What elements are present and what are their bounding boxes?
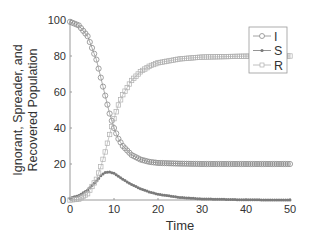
series-line	[70, 172, 290, 200]
y-axis-label-line-2: Recovered Population	[26, 48, 40, 171]
x-tick-label: 20	[152, 203, 164, 215]
legend-label: R	[274, 59, 283, 73]
series-R	[68, 54, 292, 202]
y-tick-label: 20	[54, 158, 66, 170]
y-tick-label: 60	[54, 86, 66, 98]
y-tick-label: 40	[54, 122, 66, 134]
legend: ISR	[249, 27, 287, 73]
x-axis-label: Time	[166, 218, 194, 233]
legend-marker	[260, 63, 264, 67]
y-tick-label: 100	[48, 14, 66, 26]
legend-label: S	[274, 44, 282, 58]
y-tick-label: 0	[60, 194, 66, 206]
legend-marker	[260, 49, 263, 52]
chart-container: 01020304050020406080100 ISR Time Ignoran…	[0, 0, 315, 245]
y-axis-label-line-1: Ignorant, Spreader, and	[11, 44, 25, 175]
y-axis-label: Ignorant, Spreader, and Recovered Popula…	[11, 44, 40, 175]
y-tick-label: 80	[54, 50, 66, 62]
series-S	[69, 170, 292, 201]
x-tick-label: 10	[108, 203, 120, 215]
series-line	[70, 56, 290, 200]
legend-marker	[260, 34, 265, 39]
legend-label: I	[274, 30, 277, 44]
line-chart: 01020304050020406080100 ISR Time Ignoran…	[0, 0, 315, 245]
x-tick-label: 0	[67, 203, 73, 215]
x-tick-label: 50	[284, 203, 296, 215]
x-tick-label: 40	[240, 203, 252, 215]
x-tick-label: 30	[196, 203, 208, 215]
data-point	[289, 199, 292, 202]
